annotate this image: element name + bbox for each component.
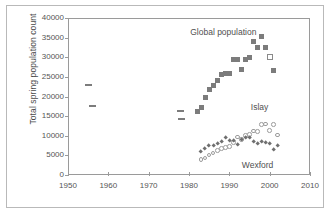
x-tick-label: 1960: [88, 181, 128, 190]
data-point: [203, 95, 208, 100]
data-point: [235, 57, 240, 62]
y-tick-label: 30000: [22, 52, 64, 61]
y-tick-label: 40000: [22, 13, 64, 22]
data-point: [263, 122, 268, 127]
data-point: [215, 78, 220, 83]
series-annotation: Global population: [190, 27, 256, 37]
y-tick-label: 25000: [22, 72, 64, 81]
chart-figure: Total spring population count 0500010000…: [0, 0, 332, 215]
y-tick-label: 20000: [22, 92, 64, 101]
data-point: [255, 45, 260, 50]
data-point: [247, 55, 252, 60]
data-point: [199, 105, 204, 110]
data-point: [89, 105, 96, 107]
data-point: [255, 129, 260, 134]
series-annotation: Islay: [251, 102, 268, 112]
x-tick-label: 1970: [129, 181, 169, 190]
data-point: [239, 67, 244, 72]
data-point: [177, 110, 184, 112]
y-tick-label: 0: [22, 170, 64, 179]
x-tick-label: 1980: [169, 181, 209, 190]
x-tick-label: 2010: [290, 181, 330, 190]
y-tick-label: 10000: [22, 131, 64, 140]
data-point: [263, 45, 268, 50]
data-point: [259, 34, 264, 39]
x-tick-label: 1990: [209, 181, 249, 190]
x-tick-mark: [310, 172, 311, 176]
data-point: [85, 84, 92, 86]
series-annotation: Wexford: [242, 160, 274, 170]
data-point: [178, 118, 185, 120]
data-point: [195, 109, 200, 114]
x-tick-label: 1950: [48, 181, 88, 190]
data-point: [271, 68, 276, 73]
data-point: [227, 71, 232, 76]
data-point: [211, 83, 216, 88]
data-point: [227, 144, 232, 149]
x-tick-label: 2000: [250, 181, 290, 190]
data-point: [267, 54, 273, 60]
data-point: [267, 128, 272, 133]
y-tick-label: 15000: [22, 111, 64, 120]
y-tick-label: 35000: [22, 33, 64, 42]
y-tick-label: 5000: [22, 150, 64, 159]
data-point: [271, 122, 276, 127]
data-point: [251, 39, 256, 44]
